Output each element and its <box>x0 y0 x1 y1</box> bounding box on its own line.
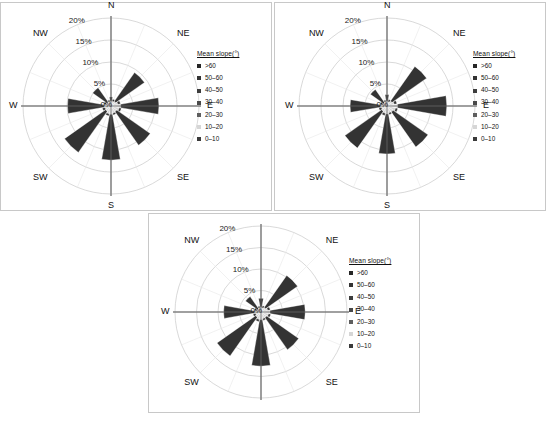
legend-swatch-icon <box>473 89 477 93</box>
legend-item-label: 10–20 <box>205 124 223 130</box>
legend-item[interactable]: 10–20 <box>349 329 391 339</box>
legend-item[interactable]: 40–50 <box>473 86 515 96</box>
radial-tick-label: 5% <box>238 287 255 295</box>
radial-tick-label: 10% <box>357 59 374 67</box>
legend-item-label: 30–40 <box>481 99 499 105</box>
compass-label-w: W <box>285 101 294 110</box>
radial-tick-label: 5% <box>364 80 381 88</box>
legend-item-label: 30–40 <box>205 99 223 105</box>
legend-swatch-icon <box>473 101 477 105</box>
legend-swatch-icon <box>197 89 201 93</box>
legend-item-label: 10–20 <box>481 124 499 130</box>
rose-panel-1: 0%5%10%15%20%NNEESESSWWNWMean slope(°)>6… <box>0 2 272 211</box>
compass-label-nw: NW <box>33 29 48 38</box>
legend: Mean slope(°)>6050–6040–5030–4020–3010–2… <box>197 51 239 146</box>
legend-item-label: 20–30 <box>481 112 499 118</box>
rose-sector <box>265 316 299 350</box>
radial-tick-label: 10% <box>232 266 249 274</box>
legend-swatch-icon <box>349 344 353 348</box>
legend-item-label: >60 <box>481 63 492 69</box>
legend-title: Mean slope(°) <box>349 258 391 265</box>
radial-tick-label: 20% <box>344 17 361 25</box>
compass-label-n: N <box>108 1 115 10</box>
legend-swatch-icon <box>349 271 353 275</box>
legend-swatch-icon <box>197 101 201 105</box>
legend-item[interactable]: 50–60 <box>349 281 391 291</box>
legend-item[interactable]: 10–20 <box>197 122 239 132</box>
legend-item[interactable]: 50–60 <box>473 74 515 84</box>
radial-tick-label: 15% <box>75 38 92 46</box>
legend-swatch-icon <box>197 76 201 80</box>
radial-tick-label: 0% <box>95 101 112 109</box>
radial-tick-label: 0% <box>245 307 262 315</box>
legend-swatch-icon <box>349 308 353 312</box>
legend-item-label: 0–10 <box>481 136 495 142</box>
legend-swatch-icon <box>349 296 353 300</box>
legend-item-label: 0–10 <box>205 136 219 142</box>
legend-item[interactable]: 0–10 <box>197 134 239 144</box>
legend-item-label: 50–60 <box>205 75 223 81</box>
legend-item[interactable]: 20–30 <box>473 110 515 120</box>
legend-item[interactable]: >60 <box>197 62 239 72</box>
rose-sector <box>391 110 428 147</box>
radial-tick-label: 15% <box>225 246 242 254</box>
legend-item-label: 40–50 <box>481 87 499 93</box>
legend-item-label: 10–20 <box>357 331 375 337</box>
legend-swatch-icon <box>349 332 353 336</box>
compass-label-w: W <box>161 307 170 316</box>
legend-swatch-icon <box>473 137 477 141</box>
legend-item[interactable]: >60 <box>349 269 391 279</box>
legend-item-label: 0–10 <box>357 343 371 349</box>
legend-item[interactable]: 50–60 <box>197 74 239 84</box>
radial-tick-label: 0% <box>371 101 388 109</box>
rose-panel-2: 0%5%10%15%20%NNEESESSWWNWMean slope(°)>6… <box>274 2 546 211</box>
legend-swatch-icon <box>349 283 353 287</box>
legend-item-label: 20–30 <box>205 112 223 118</box>
legend-item-label: 50–60 <box>481 75 499 81</box>
compass-label-n: N <box>384 1 391 10</box>
legend-swatch-icon <box>197 137 201 141</box>
legend-item[interactable]: >60 <box>473 62 515 72</box>
legend-item[interactable]: 30–40 <box>197 98 239 108</box>
legend-item[interactable]: 30–40 <box>349 305 391 315</box>
compass-label-se: SE <box>177 173 189 182</box>
legend-item[interactable]: 30–40 <box>473 98 515 108</box>
legend-item-label: 50–60 <box>357 282 375 288</box>
rose-sector <box>115 110 150 145</box>
rose-panel-3: 0%5%10%15%20%NEESESWWNWMean slope(°)>605… <box>148 213 420 413</box>
compass-label-ne: NE <box>177 29 190 38</box>
radial-tick-label: 15% <box>351 38 368 46</box>
compass-label-se: SE <box>326 378 338 387</box>
legend-swatch-icon <box>473 76 477 80</box>
legend-item[interactable]: 40–50 <box>349 293 391 303</box>
compass-label-se: SE <box>453 173 465 182</box>
legend-item[interactable]: 10–20 <box>473 122 515 132</box>
legend-item-label: 40–50 <box>205 87 223 93</box>
legend-item[interactable]: 40–50 <box>197 86 239 96</box>
compass-label-s: S <box>384 201 390 210</box>
legend-swatch-icon <box>473 113 477 117</box>
legend-item-label: >60 <box>205 63 216 69</box>
radial-tick-label: 10% <box>81 59 98 67</box>
legend-item-label: >60 <box>357 270 368 276</box>
compass-label-sw: SW <box>309 173 324 182</box>
compass-label-w: W <box>9 101 18 110</box>
compass-label-ne: NE <box>453 29 466 38</box>
legend-swatch-icon <box>473 125 477 129</box>
legend-item[interactable]: 20–30 <box>197 110 239 120</box>
legend: Mean slope(°)>6050–6040–5030–4020–3010–2… <box>349 258 391 353</box>
compass-label-ne: NE <box>326 236 339 245</box>
compass-label-nw: NW <box>309 29 324 38</box>
compass-label-sw: SW <box>33 173 48 182</box>
legend-item[interactable]: 0–10 <box>473 134 515 144</box>
legend-item[interactable]: 20–30 <box>349 317 391 327</box>
radial-tick-label: 20% <box>218 225 235 233</box>
legend-title: Mean slope(°) <box>197 51 239 58</box>
radial-tick-label: 5% <box>88 80 105 88</box>
compass-label-s: S <box>108 201 114 210</box>
compass-label-sw: SW <box>184 378 199 387</box>
compass-label-nw: NW <box>184 236 199 245</box>
legend: Mean slope(°)>6050–6040–5030–4020–3010–2… <box>473 51 515 146</box>
radial-tick-label: 20% <box>68 17 85 25</box>
legend-item[interactable]: 0–10 <box>349 341 391 351</box>
